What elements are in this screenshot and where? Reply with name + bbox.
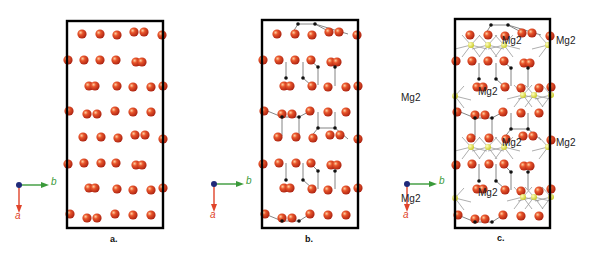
axis-b-label-b: b bbox=[246, 175, 252, 186]
magnesium-atom bbox=[531, 92, 537, 98]
carbon-atom bbox=[296, 22, 300, 26]
carbon-atom bbox=[301, 178, 305, 182]
oxygen-atom bbox=[64, 106, 73, 115]
oxygen-atom bbox=[290, 55, 299, 64]
oxygen-atom bbox=[274, 55, 283, 64]
oxygen-atom bbox=[113, 133, 122, 142]
axis-indicator-b bbox=[211, 181, 244, 212]
magnesium-atom bbox=[520, 92, 526, 98]
oxygen-atom bbox=[90, 183, 99, 192]
oxygen-atom bbox=[516, 83, 525, 92]
oxygen-atom bbox=[305, 106, 314, 115]
oxygen-atom bbox=[305, 209, 314, 218]
oxygen-atom bbox=[146, 107, 155, 116]
oxygen-atom bbox=[90, 81, 99, 90]
b-axis-arrow-icon bbox=[41, 182, 49, 188]
oxygen-atom bbox=[130, 130, 139, 139]
oxygen-atom bbox=[323, 82, 332, 91]
oxygen-atom bbox=[137, 57, 146, 66]
b-axis-arrow-icon bbox=[236, 181, 244, 187]
oxygen-atom bbox=[110, 106, 119, 115]
oxygen-atom bbox=[79, 55, 88, 64]
magnesium-atom bbox=[485, 42, 491, 48]
oxygen-atom bbox=[291, 158, 300, 167]
magnesium-atom bbox=[468, 144, 474, 150]
axis-a-label-b: a bbox=[210, 209, 216, 220]
oxygen-atom bbox=[516, 186, 525, 195]
carbon-atom bbox=[477, 77, 481, 81]
carbon-atom bbox=[280, 219, 284, 223]
panel-label-c: c. bbox=[497, 233, 505, 243]
oxygen-atom bbox=[534, 211, 543, 220]
oxygen-atom bbox=[111, 55, 120, 64]
oxygen-atom bbox=[285, 81, 294, 90]
oxygen-atom bbox=[146, 210, 155, 219]
oxygen-atom bbox=[259, 106, 268, 115]
oxygen-atom bbox=[500, 82, 509, 91]
axis-origin-icon bbox=[16, 182, 22, 188]
carbon-atom bbox=[301, 76, 305, 80]
unit-cell-box-a bbox=[67, 21, 163, 228]
mg2-label: Mg2 bbox=[556, 35, 575, 46]
oxygen-atom bbox=[274, 158, 283, 167]
oxygen-atom bbox=[334, 27, 343, 36]
oxygen-atom bbox=[525, 161, 534, 170]
carbon-atom bbox=[477, 179, 481, 183]
oxygen-atom bbox=[498, 210, 507, 219]
oxygen-atom bbox=[528, 131, 537, 140]
carbon-atom bbox=[506, 23, 510, 27]
oxygen-atom bbox=[341, 82, 350, 91]
axis-a-label-c: a bbox=[403, 209, 409, 220]
carbon-atom bbox=[313, 22, 317, 26]
oxygen-atom bbox=[140, 130, 149, 139]
oxygen-atom bbox=[146, 82, 155, 91]
oxygen-atom bbox=[96, 158, 105, 167]
oxygen-atom bbox=[335, 130, 344, 139]
oxygen-atom bbox=[516, 211, 525, 220]
b-axis-arrow-icon bbox=[429, 181, 437, 187]
axis-indicator-a bbox=[16, 182, 49, 213]
oxygen-atom bbox=[516, 108, 525, 117]
carbon-atom bbox=[509, 127, 513, 131]
mg2-label: Mg2 bbox=[556, 137, 575, 148]
oxygen-atom bbox=[308, 133, 317, 142]
crystal-structure-figure bbox=[0, 0, 589, 254]
oxygen-atom bbox=[307, 30, 316, 39]
oxygen-atom bbox=[290, 29, 299, 38]
oxygen-atom bbox=[527, 28, 536, 37]
carbon-atom bbox=[526, 170, 530, 174]
magnesium-atom bbox=[468, 42, 474, 48]
oxygen-atom bbox=[112, 81, 121, 90]
oxygen-atom bbox=[323, 107, 332, 116]
carbon-atom bbox=[297, 219, 301, 223]
oxygen-atom bbox=[137, 160, 146, 169]
carbon-atom bbox=[509, 170, 513, 174]
oxygen-atom bbox=[110, 209, 119, 218]
axis-a-label-a: a bbox=[15, 210, 21, 221]
oxygen-atom bbox=[128, 210, 137, 219]
carbon-atom bbox=[489, 23, 493, 27]
oxygen-atom bbox=[323, 185, 332, 194]
oxygen-atom bbox=[146, 185, 155, 194]
oxygen-atom bbox=[307, 81, 316, 90]
oxygen-atom bbox=[525, 58, 534, 67]
oxygen-atom bbox=[273, 132, 282, 141]
oxygen-atom bbox=[128, 107, 137, 116]
oxygen-atom bbox=[467, 56, 476, 65]
oxygen-atom bbox=[341, 185, 350, 194]
oxygen-atom bbox=[500, 185, 509, 194]
mg2-label: Mg2 bbox=[478, 187, 497, 198]
carbon-atom bbox=[284, 178, 288, 182]
carbon-atom bbox=[280, 115, 284, 119]
oxygen-atom bbox=[306, 55, 315, 64]
carbon-atom bbox=[473, 220, 477, 224]
carbon-atom bbox=[333, 169, 337, 173]
oxygen-atom bbox=[483, 56, 492, 65]
oxygen-atom bbox=[499, 159, 508, 168]
oxygen-atom bbox=[272, 29, 281, 38]
oxygen-atom bbox=[92, 109, 101, 118]
oxygen-atom bbox=[498, 107, 507, 116]
oxygen-atom bbox=[77, 29, 86, 38]
carbon-atom bbox=[333, 65, 337, 69]
carbon-atom bbox=[284, 76, 288, 80]
